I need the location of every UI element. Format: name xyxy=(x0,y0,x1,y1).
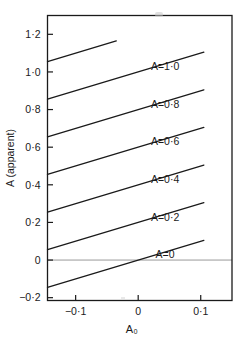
series-label: A=0·2 xyxy=(151,211,179,223)
y-tick-label: −0·2 xyxy=(19,291,40,303)
scan-artifact xyxy=(155,12,163,17)
y-tick-label: 0·6 xyxy=(25,141,40,153)
x-tick-label: 0·1 xyxy=(193,305,208,317)
series-label: A=0·6 xyxy=(151,135,179,147)
y-tick-label: 1·2 xyxy=(25,28,40,40)
line-chart: −0·100·10·2 −0·200·20·40·60·81·01·2 A=1·… xyxy=(0,0,242,344)
series-label: A=0·4 xyxy=(151,173,179,185)
y-axis-label: A (apparent) xyxy=(4,129,16,187)
chart-figure: −0·100·10·2 −0·200·20·40·60·81·01·2 A=1·… xyxy=(0,0,242,344)
x-tick-label: 0 xyxy=(135,305,141,317)
y-tick-label: 0·8 xyxy=(25,103,40,115)
scan-artifact xyxy=(121,297,125,299)
series-label: A=0 xyxy=(156,248,175,260)
y-tick-label: 0 xyxy=(35,254,41,266)
x-axis-label: A₀ xyxy=(126,323,138,335)
x-tick-label: −0·1 xyxy=(65,305,86,317)
y-tick-label: 1·0 xyxy=(25,66,40,78)
y-tick-label: 0·2 xyxy=(25,216,40,228)
series-label: A=0·8 xyxy=(151,98,179,110)
y-tick-label: 0·4 xyxy=(25,179,40,191)
series-label: A=1·0 xyxy=(151,60,179,72)
